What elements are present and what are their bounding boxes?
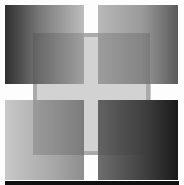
center-translucent-square xyxy=(33,33,150,155)
bottom-dark-strip xyxy=(5,181,179,185)
abstract-artwork xyxy=(0,0,184,185)
